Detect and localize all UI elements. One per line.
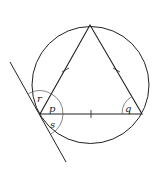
angle-label-p: p [49,103,56,114]
angle-label-r: r [37,93,43,104]
angle-label-s: s [50,119,55,130]
angle-label-q: q [125,103,131,114]
tangent-line [10,62,66,162]
geometry-diagram: r p s q [0,0,160,170]
